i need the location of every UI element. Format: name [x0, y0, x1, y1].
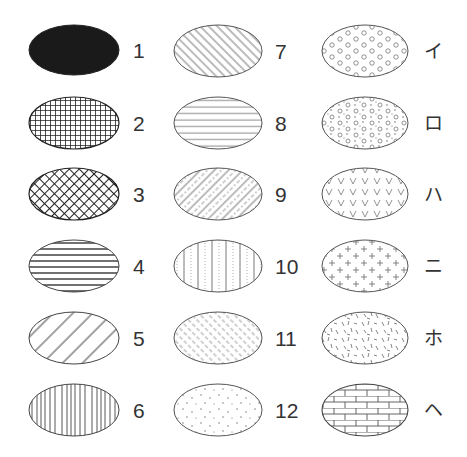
- legend-item-1: 1: [29, 25, 145, 75]
- legend-label: イ: [424, 40, 443, 62]
- legend-item-3: 3: [29, 168, 145, 220]
- horizontal-lines-swatch: [29, 240, 119, 292]
- legend-item-11: 11: [174, 312, 297, 364]
- legend-label: 3: [133, 183, 145, 206]
- circles-dots-swatch: [322, 97, 408, 149]
- thin-horizontal-swatch: [174, 97, 262, 149]
- legend-item-12: 12: [174, 384, 298, 436]
- legend-item-6: 6: [29, 384, 145, 436]
- legend-item-8: 8: [174, 97, 287, 149]
- diagonal-dashes-swatch: [174, 168, 262, 220]
- sparse-dots-swatch: [174, 384, 262, 436]
- legend-label: 9: [275, 183, 287, 206]
- legend-item-i: イ: [322, 25, 443, 77]
- legend-label: 12: [275, 399, 298, 422]
- vertical-lines-swatch: [29, 384, 119, 436]
- legend-item-ni: ニ: [322, 240, 443, 292]
- vertical-dotted-swatch: [174, 240, 262, 292]
- legend-label: 1: [133, 39, 145, 62]
- legend-item-7: 7: [174, 25, 287, 77]
- wide-diagonal-swatch: [29, 312, 119, 364]
- legend-label: ヘ: [424, 399, 443, 421]
- legend-item-ro: ロ: [322, 97, 443, 149]
- legend-item-4: 4: [29, 240, 145, 292]
- crosshatch-swatch: [29, 168, 119, 220]
- v-marks-swatch: [322, 168, 408, 220]
- legend-label: 8: [275, 112, 287, 135]
- random-strokes-swatch: [322, 312, 408, 364]
- legend-item-ha: ハ: [322, 168, 443, 220]
- legend-label: ホ: [424, 327, 443, 349]
- solid-black-swatch: [29, 25, 119, 75]
- legend-label: ハ: [424, 183, 443, 205]
- legend-item-ho: ホ: [322, 312, 443, 364]
- legend-label: 6: [133, 399, 145, 422]
- square-grid-swatch: [29, 97, 119, 149]
- plus-marks-swatch: [322, 240, 408, 292]
- legend-label: ニ: [424, 255, 443, 277]
- small-circles-swatch: [322, 25, 408, 77]
- pattern-legend: 1 2 3 4 5 6 7 8 9 10 11 12: [0, 0, 467, 457]
- legend-label: 7: [275, 40, 287, 63]
- legend-item-10: 10: [174, 240, 298, 292]
- legend-label: 2: [133, 112, 145, 135]
- legend-item-9: 9: [174, 168, 287, 220]
- brick-swatch: [322, 384, 408, 436]
- legend-item-he: ヘ: [322, 384, 443, 436]
- legend-item-5: 5: [29, 312, 145, 364]
- short-dashes-swatch: [174, 312, 262, 364]
- dense-diagonal-swatch: [174, 25, 262, 77]
- legend-label: 11: [275, 327, 297, 350]
- legend-label: 5: [133, 327, 145, 350]
- legend-label: 10: [275, 255, 298, 278]
- legend-label: 4: [133, 255, 145, 278]
- legend-label: ロ: [424, 112, 443, 134]
- legend-item-2: 2: [29, 97, 145, 149]
